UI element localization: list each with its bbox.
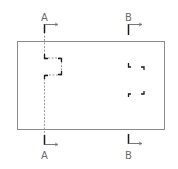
section-b-bottom-arrow-icon xyxy=(129,134,143,145)
section-b-bottom-label: B xyxy=(125,150,132,161)
section-a-top-arrow-icon xyxy=(45,23,59,33)
section-a-cutting-line xyxy=(45,25,62,142)
section-b-top-arrow-icon xyxy=(129,23,143,35)
section-a-bottom-label: A xyxy=(41,150,48,161)
section-a-bottom-arrow-icon xyxy=(45,135,59,146)
section-b-corner-marks xyxy=(129,63,145,97)
section-a-top-label: A xyxy=(41,12,48,23)
section-b-top-label: B xyxy=(125,12,132,23)
part-outline xyxy=(18,42,165,130)
section-drawing: A A B B xyxy=(0,0,178,169)
